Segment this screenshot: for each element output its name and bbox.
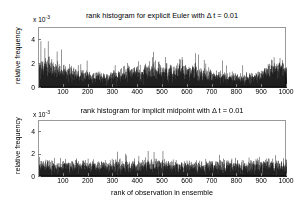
chart-title-implicit-midpoint: rank histogram for implicit midpoint wit… (38, 106, 286, 115)
y-tick-label: 0 (22, 84, 35, 91)
y-exponent-power-bottom: -3 (45, 109, 49, 115)
x-tick-label: 600 (174, 88, 200, 96)
chart-title-explicit-euler: rank histogram for explicit Euler with Δ… (38, 11, 286, 20)
y-tick-label: 2 (22, 150, 35, 157)
x-tick-mark (187, 84, 188, 87)
x-tick-label: 400 (124, 88, 150, 96)
y-tick-mark (38, 63, 41, 64)
x-tick-mark (137, 84, 138, 87)
x-tick-label: 1000 (273, 88, 298, 96)
x-tick-label: 500 (149, 177, 175, 185)
x-tick-mark (88, 84, 89, 87)
x-tick-label: 500 (149, 88, 175, 96)
y-tick-label: 0 (22, 173, 35, 180)
x-tick-label: 700 (199, 88, 225, 96)
figure-canvas: rank histogram for explicit Euler with Δ… (0, 0, 298, 209)
x-tick-mark (137, 173, 138, 176)
x-tick-mark (286, 84, 287, 87)
x-tick-label: 200 (75, 88, 101, 96)
x-tick-label: 400 (124, 177, 150, 185)
x-tick-mark (286, 173, 287, 176)
y-exponent-base-bottom: x 10 (33, 111, 45, 118)
x-tick-mark (236, 84, 237, 87)
x-tick-mark (261, 173, 262, 176)
y-axis-exponent-bottom: x 10-3 (33, 111, 50, 119)
y-tick-mark (38, 39, 41, 40)
y-axis-exponent-top: x 10-3 (33, 16, 50, 24)
y-exponent-power-top: -3 (45, 14, 49, 20)
y-tick-label: 2 (22, 60, 35, 67)
y-exponent-base-top: x 10 (33, 16, 45, 23)
x-tick-label: 100 (50, 88, 76, 96)
y-tick-mark (38, 131, 41, 132)
x-tick-mark (63, 173, 64, 176)
y-tick-mark (38, 176, 41, 177)
x-tick-mark (162, 84, 163, 87)
x-tick-label: 100 (50, 177, 76, 185)
x-tick-label: 300 (99, 88, 125, 96)
x-tick-label: 600 (174, 177, 200, 185)
x-tick-mark (88, 173, 89, 176)
subplot-implicit-midpoint: rank histogram for implicit midpoint wit… (0, 98, 298, 209)
x-tick-mark (112, 84, 113, 87)
x-tick-mark (261, 84, 262, 87)
x-tick-label: 900 (248, 177, 274, 185)
x-tick-label: 800 (223, 88, 249, 96)
y-tick-mark (38, 87, 41, 88)
y-axis-label-bottom: relative frequency (14, 117, 22, 174)
histogram-bars-explicit-euler (39, 28, 287, 88)
histogram-bars-implicit-midpoint (39, 121, 287, 177)
y-tick-mark (38, 154, 41, 155)
x-tick-mark (112, 173, 113, 176)
x-tick-label: 1000 (273, 177, 298, 185)
x-tick-label: 200 (75, 177, 101, 185)
x-tick-mark (187, 173, 188, 176)
plot-area-implicit-midpoint (38, 120, 286, 176)
y-tick-label: 4 (22, 36, 35, 43)
x-tick-mark (212, 173, 213, 176)
y-tick-label: 4 (22, 128, 35, 135)
x-tick-mark (162, 173, 163, 176)
x-tick-label: 700 (199, 177, 225, 185)
x-axis-label: rank of observation in ensemble (38, 188, 286, 197)
x-tick-mark (212, 84, 213, 87)
y-axis-label-top: relative frequency (14, 27, 22, 84)
x-tick-mark (63, 84, 64, 87)
x-tick-mark (236, 173, 237, 176)
plot-area-explicit-euler (38, 27, 286, 87)
subplot-explicit-euler: rank histogram for explicit Euler with Δ… (0, 0, 298, 104)
x-tick-label: 300 (99, 177, 125, 185)
x-tick-label: 900 (248, 88, 274, 96)
x-tick-label: 800 (223, 177, 249, 185)
